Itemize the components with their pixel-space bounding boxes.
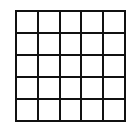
grid-cell [81, 33, 103, 55]
grid-cell [38, 99, 60, 121]
grid-cell [16, 33, 38, 55]
grid-cell [16, 55, 38, 77]
grid-cell [103, 11, 125, 33]
grid-cell [16, 99, 38, 121]
grid-cell [38, 55, 60, 77]
grid-cell [81, 11, 103, 33]
grid-cell [38, 11, 60, 33]
grid-cell [81, 55, 103, 77]
grid-cell [103, 99, 125, 121]
grid-cell [81, 99, 103, 121]
grid-cell [60, 55, 82, 77]
grid-5x5 [15, 10, 126, 122]
grid-cell [103, 77, 125, 99]
grid-cell [60, 11, 82, 33]
grid-cell [103, 33, 125, 55]
grid-cell [60, 33, 82, 55]
grid-cell [38, 77, 60, 99]
grid-cell [16, 77, 38, 99]
grid-cell [81, 77, 103, 99]
grid-cell [103, 55, 125, 77]
grid-cell [16, 11, 38, 33]
grid-cell [60, 77, 82, 99]
grid-cell [60, 99, 82, 121]
grid-cell [38, 33, 60, 55]
